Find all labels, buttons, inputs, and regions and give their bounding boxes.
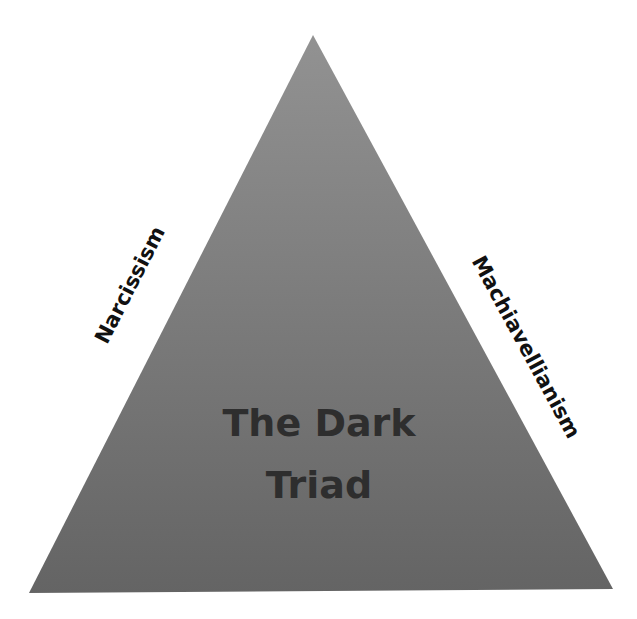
dark-triad-triangle-diagram — [0, 0, 637, 619]
center-title-line-1: The Dark — [222, 392, 415, 454]
center-title-line-2: Triad — [222, 454, 415, 516]
center-title: The Dark Triad — [222, 392, 415, 516]
